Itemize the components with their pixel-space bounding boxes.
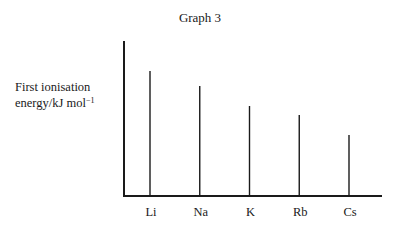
plot-area [0, 0, 394, 228]
x-tick-label-cs: Cs [343, 205, 356, 220]
x-tick-label-k: K [246, 205, 255, 220]
bar-series [150, 71, 349, 196]
x-tick-label-na: Na [193, 205, 208, 220]
x-tick-label-rb: Rb [293, 205, 308, 220]
x-tick-label-li: Li [145, 205, 156, 220]
